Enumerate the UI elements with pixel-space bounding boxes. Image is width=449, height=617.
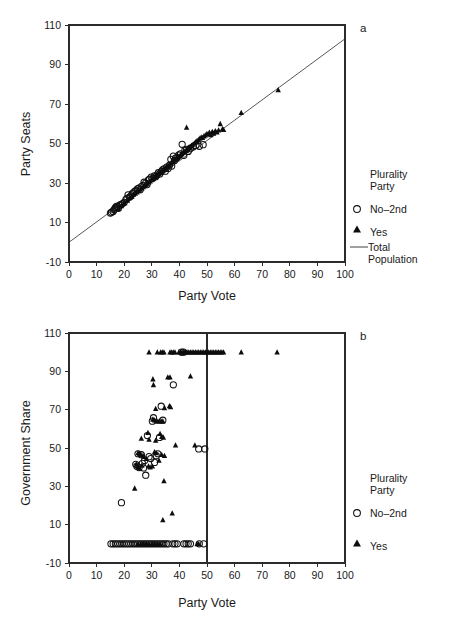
y-tick-label: 90 (49, 365, 61, 377)
x-tick-label: 60 (229, 569, 241, 581)
panel-b-x-axis-title: Party Vote (178, 596, 236, 610)
x-tick-label: 10 (91, 268, 103, 280)
legend-a-triangle-swatch (353, 226, 361, 233)
panel-a-legend: Plurality Party No–2nd Yes Total Populat… (350, 168, 418, 265)
data-point-yes (239, 110, 244, 115)
legend-a-line-label-1: Total (368, 241, 390, 253)
legend-a-line-label-2: Population (368, 253, 418, 265)
legend-b-triangle-swatch (353, 540, 361, 547)
panel-a-y-tick-labels: -101030507090110 (44, 19, 61, 268)
x-tick-label: 100 (336, 569, 354, 581)
data-point-yes (161, 478, 166, 483)
scatter-figure: 0102030405060708090100 -101030507090110 … (0, 0, 449, 617)
y-tick-label: 110 (44, 19, 61, 31)
y-tick-label: 90 (49, 58, 61, 70)
panel-b-tick-marks (65, 333, 345, 567)
legend-b-title-line1: Plurality (370, 472, 408, 484)
x-tick-label: 70 (256, 569, 268, 581)
legend-a-title-line2: Party (370, 180, 395, 192)
panel-b-y-tick-labels: -101030507090110 (44, 327, 61, 569)
panel-b-legend: Plurality Party No–2nd Yes (353, 472, 408, 552)
data-point-no-2nd (118, 500, 124, 506)
y-tick-label: 70 (49, 98, 61, 110)
legend-a-circle-swatch (354, 206, 361, 213)
y-tick-label: 10 (49, 518, 61, 530)
legend-b-triangle-label: Yes (370, 540, 387, 552)
x-tick-label: 80 (284, 569, 296, 581)
panel-b-series-yes-points (132, 349, 280, 546)
data-point-yes (139, 436, 144, 441)
data-point-yes (184, 124, 189, 129)
x-tick-label: 20 (118, 268, 130, 280)
panel-b-series-no-2nd-points (108, 349, 208, 547)
data-point-yes (274, 349, 279, 354)
legend-b-circle-swatch (354, 510, 361, 517)
panel-b-x-tick-labels: 0102030405060708090100 (66, 569, 354, 581)
panel-a-x-axis-title: Party Vote (178, 289, 236, 303)
x-tick-label: 0 (66, 569, 72, 581)
y-tick-label: -10 (46, 557, 61, 569)
data-point-yes (159, 452, 164, 457)
x-tick-label: 70 (256, 268, 268, 280)
legend-a-title-line1: Plurality (370, 168, 408, 180)
data-point-yes (132, 485, 137, 490)
panel-a: 0102030405060708090100 -101030507090110 … (0, 0, 449, 310)
x-tick-label: 100 (336, 268, 354, 280)
x-tick-label: 90 (312, 268, 324, 280)
data-point-no-2nd (170, 382, 176, 388)
data-point-no-2nd (179, 141, 185, 147)
x-tick-label: 50 (201, 569, 213, 581)
data-point-yes (153, 406, 158, 411)
panel-b: 0102030405060708090100 -101030507090110 … (0, 310, 449, 617)
data-point-yes (218, 121, 223, 126)
x-tick-label: 50 (201, 268, 213, 280)
x-tick-label: 40 (174, 569, 186, 581)
data-point-yes (146, 349, 151, 354)
panel-b-y-axis-title: Government Share (19, 400, 33, 506)
y-tick-label: 10 (49, 216, 61, 228)
panel-a-plot: 0102030405060708090100 -101030507090110 … (0, 0, 449, 310)
legend-a-triangle-label: Yes (370, 226, 387, 238)
axes-frame-box (69, 25, 345, 262)
panel-a-x-tick-labels: 0102030405060708090100 (66, 268, 354, 280)
data-point-yes (239, 349, 244, 354)
x-tick-label: 30 (146, 268, 158, 280)
panel-a-letter: a (360, 22, 367, 34)
y-tick-label: 50 (49, 442, 61, 454)
y-tick-label: 70 (49, 403, 61, 415)
x-tick-label: 90 (312, 569, 324, 581)
x-tick-label: 0 (66, 268, 72, 280)
x-tick-label: 10 (91, 569, 103, 581)
panel-a-tick-marks (65, 25, 345, 266)
panel-b-letter: b (360, 330, 366, 342)
data-point-yes (188, 373, 193, 378)
y-tick-label: 50 (49, 137, 61, 149)
y-tick-label: 30 (49, 177, 61, 189)
panel-a-axes-frame (69, 25, 345, 262)
panel-a-y-axis-title: Party Seats (19, 112, 33, 177)
panel-b-plot: 0102030405060708090100 -101030507090110 … (0, 310, 449, 617)
data-point-no-2nd (143, 472, 149, 478)
y-tick-label: 110 (44, 327, 61, 339)
legend-b-circle-label: No–2nd (370, 507, 407, 519)
data-point-no-2nd (201, 541, 207, 547)
y-tick-label: -10 (46, 256, 61, 268)
data-point-yes (192, 442, 197, 447)
data-point-yes (160, 517, 165, 522)
x-tick-label: 80 (284, 268, 296, 280)
x-tick-label: 30 (146, 569, 158, 581)
data-point-yes (170, 510, 175, 515)
data-point-yes (151, 382, 156, 387)
data-point-yes (173, 442, 178, 447)
y-tick-label: 30 (49, 480, 61, 492)
legend-a-circle-label: No–2nd (370, 203, 407, 215)
legend-b-title-line2: Party (370, 484, 395, 496)
x-tick-label: 60 (229, 268, 241, 280)
x-tick-label: 20 (118, 569, 130, 581)
x-tick-label: 40 (174, 268, 186, 280)
data-point-yes (162, 405, 167, 410)
data-point-yes (150, 376, 155, 381)
